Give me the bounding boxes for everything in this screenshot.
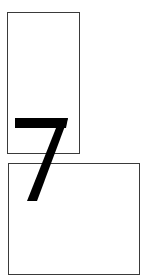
glyph-character: 7 <box>0 0 1 1</box>
top-rectangle <box>7 12 80 154</box>
bottom-rectangle <box>8 163 140 275</box>
